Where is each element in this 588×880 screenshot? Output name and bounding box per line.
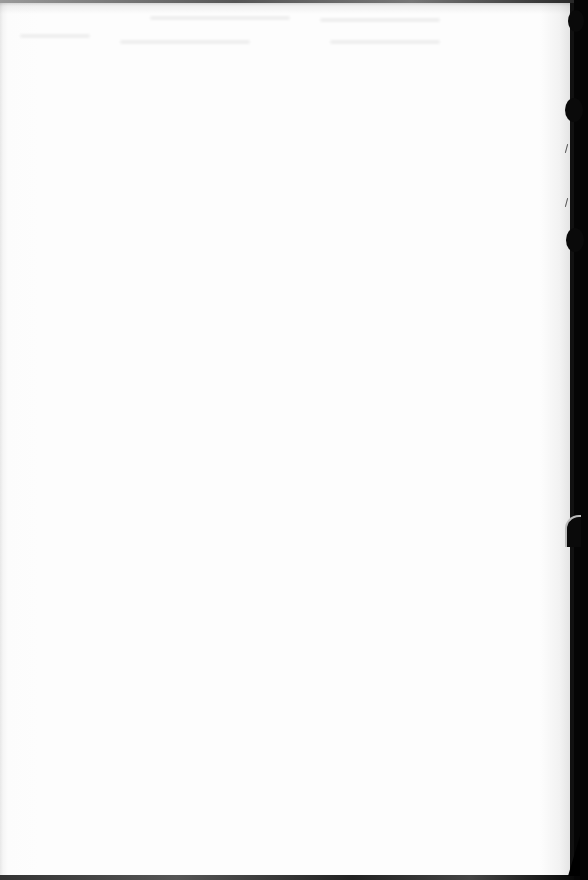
blank-document-page <box>0 2 570 876</box>
bleed-through-mark <box>320 18 440 22</box>
binding-clip <box>565 515 581 547</box>
scan-bottom-edge <box>0 875 588 880</box>
scan-background <box>0 0 588 880</box>
scan-right-border <box>574 0 588 880</box>
bleed-through-mark <box>150 16 290 20</box>
bleed-through-mark <box>120 40 250 44</box>
bleed-through-mark <box>20 34 90 38</box>
binding-mark <box>565 98 583 122</box>
binding-mark <box>568 10 584 32</box>
scan-top-edge <box>0 0 588 3</box>
bleed-through-mark <box>330 40 440 44</box>
binding-mark <box>566 228 584 252</box>
page-corner-fold <box>568 836 580 876</box>
